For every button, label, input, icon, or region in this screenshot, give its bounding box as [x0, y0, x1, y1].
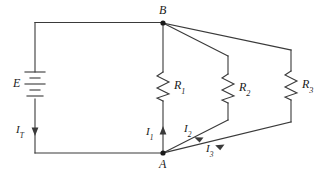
resistor-r2-zigzag: [222, 74, 234, 103]
arrow-i2-upright: [194, 137, 203, 142]
arrow-i1-up: [160, 126, 167, 135]
current-label-i2-subscript: 2: [188, 130, 192, 139]
resistor-label-r1-subscript: 1: [181, 87, 185, 96]
wire-b-to-r2: [163, 23, 228, 56]
node-dot-a: [160, 150, 165, 155]
current-label-i3: I3: [206, 143, 213, 157]
resistor-r1-zigzag: [157, 72, 169, 101]
wire-b-to-r3: [163, 23, 291, 50]
current-label-i2: I2: [184, 123, 191, 137]
resistor-label-r2-subscript: 2: [246, 89, 250, 98]
resistor-label-r2: R2: [239, 81, 250, 97]
resistor-label-r3: R3: [302, 78, 313, 94]
node-label-b: B: [159, 4, 166, 16]
battery-symbol: [25, 72, 45, 96]
current-label-it-subscript: T: [20, 131, 24, 140]
current-label-i1: I1: [146, 126, 153, 140]
resistor-label-r1: R1: [174, 79, 185, 95]
circuit-diagram: B A E R1 R2 R3 IT I1 I2 I3: [0, 0, 329, 177]
arrow-i3-upright: [215, 145, 224, 151]
wire-r3-to-a: [163, 122, 291, 153]
current-label-it: IT: [16, 124, 24, 138]
node-label-a: A: [159, 158, 166, 170]
arrow-it-down: [32, 128, 39, 137]
node-dot-b: [160, 20, 165, 25]
current-label-i3-subscript: 3: [210, 150, 214, 159]
circuit-schematic-svg: [0, 0, 329, 177]
resistor-r3-zigzag: [285, 71, 297, 100]
resistor-label-r3-subscript: 3: [309, 86, 313, 95]
current-label-i1-subscript: 1: [150, 133, 154, 142]
source-label-e: E: [13, 77, 20, 89]
